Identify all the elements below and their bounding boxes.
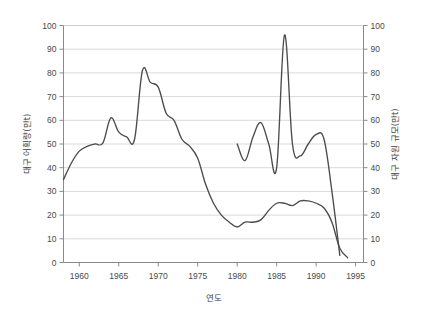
y-axis-left-tick-label: 50 [47,139,57,149]
y-axis-right-tick-label: 100 [371,21,385,31]
x-axis-title: 연도 [206,293,222,303]
y-axis-right-tick-label: 40 [371,163,381,173]
y-axis-left-tick-label: 70 [47,92,57,102]
x-axis-tick-label: 1990 [307,271,326,281]
x-axis-tick-label: 1960 [70,271,89,281]
x-axis-tick-label: 1965 [109,271,128,281]
y-axis-right-tick-label: 60 [371,115,381,125]
y-axis-right-tick-label: 70 [371,92,381,102]
y-axis-right-tick-label: 80 [371,68,381,78]
y-axis-left-tick-label: 10 [47,234,57,244]
y-axis-right-title: 대구 자원 규모(만t) [390,108,400,179]
cod-catch-stock-line-chart: 0102030405060708090100010203040506070809… [0,0,422,318]
x-axis-tick-label: 1970 [149,271,168,281]
x-axis-tick-label: 1995 [346,271,365,281]
x-axis-tick-label: 1975 [188,271,207,281]
y-axis-right-tick-label: 0 [371,258,376,268]
chart-container: 0102030405060708090100010203040506070809… [0,0,422,318]
y-axis-right-tick-label: 50 [371,139,381,149]
y-axis-left-tick-label: 90 [47,44,57,54]
series-line-1 [64,68,348,258]
y-axis-right-tick-label: 90 [371,44,381,54]
y-axis-left-tick-label: 80 [47,68,57,78]
y-axis-left-title: 대구 어획량(만t) [22,114,32,175]
y-axis-left-tick-label: 0 [52,258,57,268]
x-axis-tick-label: 1985 [267,271,286,281]
y-axis-left-tick-label: 30 [47,186,57,196]
y-axis-left-tick-label: 100 [42,21,56,31]
y-axis-left-tick-label: 40 [47,163,57,173]
y-axis-right-tick-label: 20 [371,210,381,220]
y-axis-left-tick-label: 20 [47,210,57,220]
y-axis-left-tick-label: 60 [47,115,57,125]
y-axis-right-tick-label: 10 [371,234,381,244]
y-axis-right-tick-label: 30 [371,186,381,196]
x-axis-tick-label: 1980 [228,271,247,281]
